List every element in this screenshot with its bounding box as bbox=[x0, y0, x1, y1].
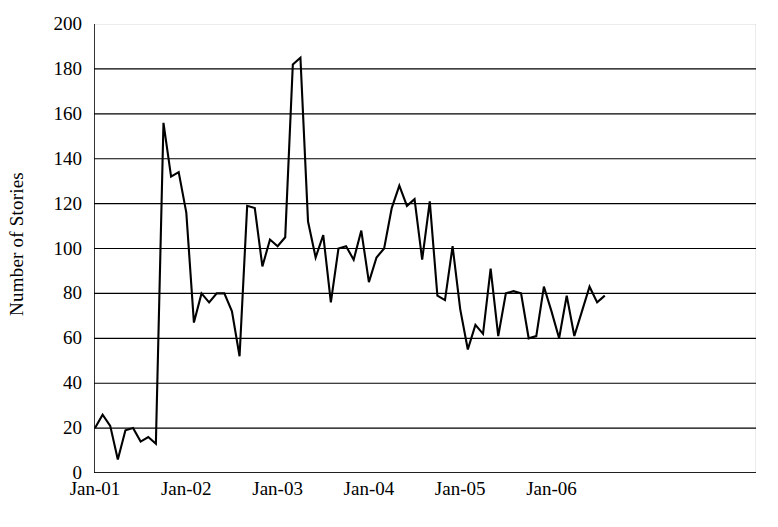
gridlines-group bbox=[94, 24, 756, 473]
y-axis-tick-label-120: 120 bbox=[54, 193, 83, 215]
y-axis-tick-label-60: 60 bbox=[63, 327, 82, 349]
plot-area bbox=[94, 24, 756, 473]
x-axis-tick-label-Jan-01: Jan-01 bbox=[70, 478, 121, 500]
y-axis-tick-label-200: 200 bbox=[54, 13, 83, 35]
y-axis-tick-label-20: 20 bbox=[63, 417, 82, 439]
plot-svg bbox=[94, 24, 756, 473]
line-chart: Number of Stories 0204060801001201401601… bbox=[0, 0, 778, 527]
series-line-number-of-stories bbox=[95, 58, 605, 460]
y-axis-tick-label-80: 80 bbox=[63, 282, 82, 304]
x-axis-tick-label-Jan-05: Jan-05 bbox=[435, 478, 486, 500]
x-axis-tick-label-Jan-04: Jan-04 bbox=[344, 478, 395, 500]
y-axis-title-container: Number of Stories bbox=[0, 0, 34, 487]
y-axis-tick-label-140: 140 bbox=[54, 148, 83, 170]
x-axis-tick-label-Jan-03: Jan-03 bbox=[252, 478, 303, 500]
y-axis-tick-label-100: 100 bbox=[54, 238, 83, 260]
y-axis-tick-label-40: 40 bbox=[63, 372, 82, 394]
y-axis-title: Number of Stories bbox=[6, 172, 28, 316]
x-axis-tick-label-Jan-06: Jan-06 bbox=[526, 478, 577, 500]
x-axis-tick-labels: Jan-01Jan-02Jan-03Jan-04Jan-05Jan-06 bbox=[94, 478, 756, 518]
y-axis-tick-labels: 020406080100120140160180200 bbox=[30, 0, 90, 487]
data-series-group bbox=[95, 58, 605, 460]
y-axis-tick-label-180: 180 bbox=[54, 58, 83, 80]
x-axis-tick-label-Jan-02: Jan-02 bbox=[161, 478, 212, 500]
y-axis-tick-label-160: 160 bbox=[54, 103, 83, 125]
